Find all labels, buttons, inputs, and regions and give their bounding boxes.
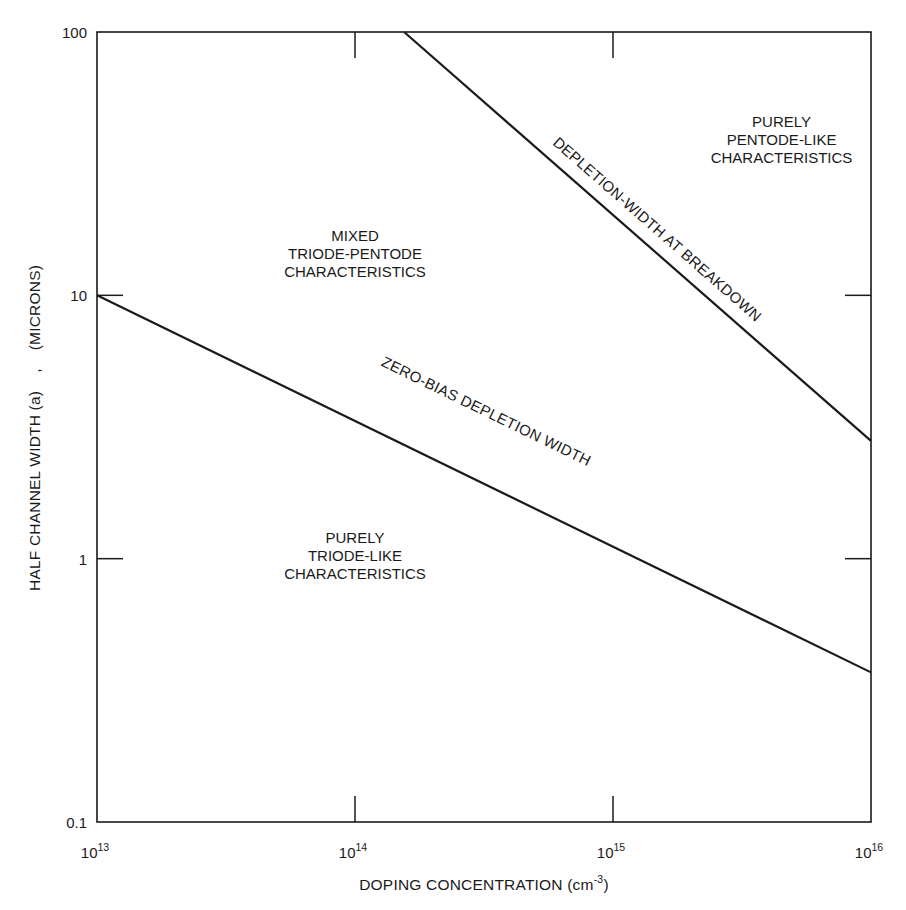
curve-labels: DEPLETION-WIDTH AT BREAKDOWNZERO-BIAS DE… [379,133,765,469]
x-tick-label: 1013 [81,841,110,861]
y-tick-label: 10 [70,287,87,304]
triode-region-label: PURELYTRIODE-LIKECHARACTERISTICS [284,529,426,582]
y-axis-title: HALF CHANNEL WIDTH (a) , (MICRONS) [26,265,43,591]
breakdown-depletion-line [404,32,871,441]
y-tick-label: 100 [62,24,87,41]
y-tick-label: 1 [79,551,87,568]
region-labels: PURELYPENTODE-LIKECHARACTERISTICSMIXEDTR… [284,113,852,582]
y-tick-label: 0.1 [66,814,87,831]
mixed-region-label: MIXEDTRIODE-PENTODECHARACTERISTICS [284,227,426,280]
zero-bias-depletion-line [97,295,871,672]
x-tick-label: 1014 [339,841,368,861]
chart: 10131014101510160.1110100 DEPLETION-WIDT… [0,0,906,910]
pentode-region-label: PURELYPENTODE-LIKECHARACTERISTICS [711,113,853,166]
x-axis-title: DOPING CONCENTRATION (cm-3) [359,873,609,893]
x-tick-label: 1015 [597,841,626,861]
x-tick-label: 1016 [855,841,884,861]
zero-bias-curve-label: ZERO-BIAS DEPLETION WIDTH [379,353,594,469]
